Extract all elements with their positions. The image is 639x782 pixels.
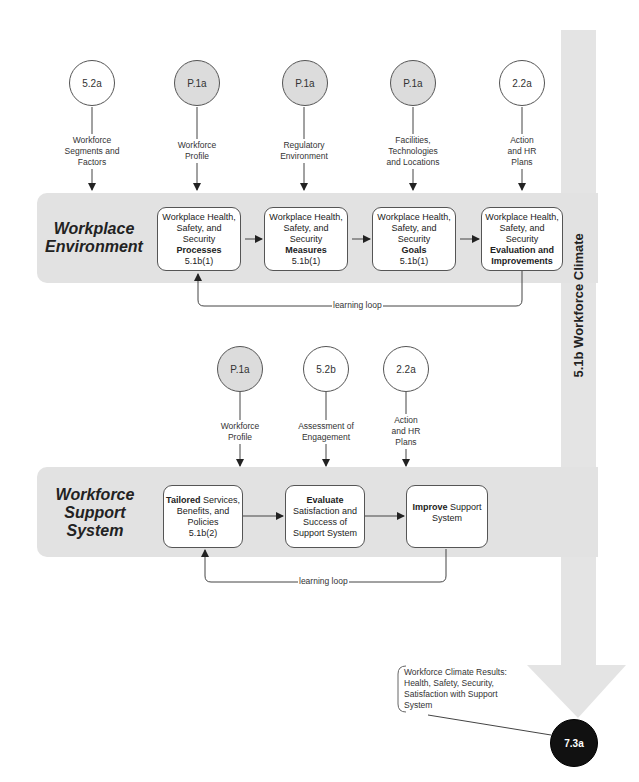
input-label-workforce-segments: Workforce Segments and Factors [52,134,132,169]
input-label-action-hr-plans: Action and HR Plans [502,134,542,169]
ref-circle-5-2b: 5.2b [303,346,349,392]
support-input-label-action-hr-plans: Action and HR Plans [386,414,426,449]
ref-circle-p-1a: P.1a [390,60,436,106]
workplace-environment-title: Workplace Environment [44,220,144,256]
support-input-label-workforce-profile: Workforce Profile [210,420,270,444]
workforce-climate-results-label: Workforce Climate Results: Health, Safet… [404,667,544,711]
input-label-workforce-profile: Workforce Profile [167,139,227,163]
step-evaluate-satisfaction: Evaluate Satisfaction and Success of Sup… [285,485,365,548]
learning-loop-label: learning loop [332,300,383,310]
ref-circle-p-1a: P.1a [217,346,263,392]
input-label-facilities: Facilities, Technologies and Locations [373,134,453,169]
step-measures: Workplace Health, Safety, and Security M… [264,207,348,271]
step-tailored-services: Tailored Services, Benefits, and Policie… [163,485,243,548]
step-improve-support: Improve Support System [406,485,488,548]
step-evaluation-improvements: Workplace Health, Safety, and Security E… [481,207,563,271]
learning-loop-label: learning loop [298,576,349,586]
ref-circle-7-3a: 7.3a [550,719,598,767]
workforce-support-title: Workforce Support System [50,486,140,540]
step-processes: Workplace Health, Safety, and Security P… [157,207,241,271]
ref-circle-p-1a: P.1a [282,60,328,106]
ref-circle-2-2a: 2.2a [499,60,545,106]
workforce-climate-title: 5.1b Workforce Climate [571,258,586,378]
ref-circle-5-2a: 5.2a [69,60,115,106]
support-input-label-assessment: Assessment of Engagement [291,420,361,444]
step-goals: Workplace Health, Safety, and Security G… [372,207,456,271]
input-label-regulatory-environment: Regulatory Environment [271,139,337,163]
ref-circle-p-1a: P.1a [174,60,220,106]
ref-circle-2-2a: 2.2a [383,346,429,392]
